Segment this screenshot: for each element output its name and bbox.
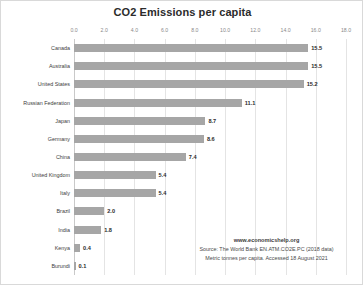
bar[interactable] xyxy=(74,80,304,88)
bar-row: Germany8.6 xyxy=(74,130,346,148)
bar[interactable] xyxy=(74,135,204,143)
bar-value-label: 8.6 xyxy=(207,136,215,142)
x-tick-label: 4.0 xyxy=(131,27,138,33)
bar[interactable] xyxy=(74,153,186,161)
category-label: China xyxy=(56,154,70,160)
bar-row: Brazil2.0 xyxy=(74,202,346,220)
bar-row: Japan8.7 xyxy=(74,112,346,130)
x-tick-label: 6.0 xyxy=(161,27,168,33)
bar-value-label: 2.0 xyxy=(107,208,115,214)
x-tick-label: 2.0 xyxy=(101,27,108,33)
bar-value-label: 15.5 xyxy=(311,45,322,51)
category-label: Burundi xyxy=(51,263,70,269)
bar-value-label: 5.4 xyxy=(159,172,167,178)
bar[interactable] xyxy=(74,171,156,179)
bar[interactable] xyxy=(74,226,101,234)
bar[interactable] xyxy=(74,262,76,270)
bar[interactable] xyxy=(74,244,80,252)
x-tick-label: 16.0 xyxy=(311,27,321,33)
x-tick-label: 8.0 xyxy=(191,27,198,33)
bar-row: Russian Federation11.1 xyxy=(74,93,346,111)
site-url: www.economicshelp.org xyxy=(179,237,354,243)
bar-row: Canada15.5 xyxy=(74,39,346,57)
bar-row: Italy5.4 xyxy=(74,184,346,202)
bar-value-label: 7.4 xyxy=(189,154,197,160)
x-tick-label: 12.0 xyxy=(250,27,260,33)
x-tick-label: 14.0 xyxy=(280,27,290,33)
bar[interactable] xyxy=(74,62,308,70)
bar[interactable] xyxy=(74,207,104,215)
category-label: Kenya xyxy=(55,245,70,251)
source-line: Source: The World Bank EN.ATM.CO2E.PC (2… xyxy=(179,245,354,253)
bar-row: India1.8 xyxy=(74,221,346,239)
x-tick-label: 18.0 xyxy=(341,27,351,33)
bar-value-label: 1.8 xyxy=(104,227,112,233)
bar-value-label: 0.1 xyxy=(79,263,87,269)
bar[interactable] xyxy=(74,44,308,52)
category-label: Japan xyxy=(55,118,70,124)
x-tick-label: 10.0 xyxy=(220,27,230,33)
bar-row: China7.4 xyxy=(74,148,346,166)
category-label: India xyxy=(58,227,70,233)
chart-container: CO2 Emissions per capita 0.02.04.06.08.0… xyxy=(0,0,363,285)
bar-value-label: 0.4 xyxy=(83,245,91,251)
x-tick-label: 0.0 xyxy=(70,27,77,33)
x-axis-tick-labels: 0.02.04.06.08.010.012.014.016.018.0 xyxy=(74,27,346,37)
bar[interactable] xyxy=(74,117,205,125)
bar-row: United Kingdom5.4 xyxy=(74,166,346,184)
bar-value-label: 8.7 xyxy=(208,118,216,124)
chart-title: CO2 Emissions per capita xyxy=(1,6,363,18)
bar-value-label: 15.5 xyxy=(311,63,322,69)
bar[interactable] xyxy=(74,189,156,197)
bar-row: United States15.2 xyxy=(74,75,346,93)
bar-row: Australia15.5 xyxy=(74,57,346,75)
category-label: United States xyxy=(38,81,70,87)
units-line: Metric tonnes per capita. Accessed 18 Au… xyxy=(179,254,354,262)
bar-value-label: 5.4 xyxy=(159,190,167,196)
bar-value-label: 15.2 xyxy=(307,81,318,87)
category-label: United Kingdom xyxy=(32,172,70,178)
category-label: Russian Federation xyxy=(23,100,70,106)
category-label: Brazil xyxy=(57,208,70,214)
category-label: Germany xyxy=(48,136,70,142)
category-label: Australia xyxy=(49,63,70,69)
bar-value-label: 11.1 xyxy=(245,100,256,106)
bar[interactable] xyxy=(74,99,242,107)
category-label: Italy xyxy=(60,190,70,196)
category-label: Canada xyxy=(51,45,70,51)
attribution-block: www.economicshelp.org Source: The World … xyxy=(179,237,354,262)
